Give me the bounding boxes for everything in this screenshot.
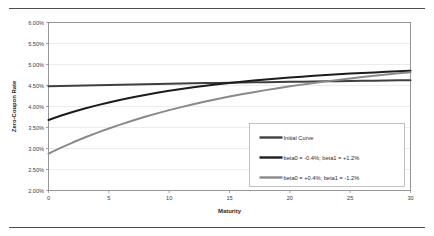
x-tick-label: 0	[47, 195, 50, 201]
line-chart: 2.00%2.50%3.00%3.50%4.00%4.50%5.00%5.50%…	[0, 0, 434, 236]
y-tick-label: 5.50%	[28, 41, 44, 47]
x-tick-label: 15	[226, 195, 232, 201]
x-tick-label: 30	[407, 195, 413, 201]
y-axis-title: Zero-Coupon Rate	[11, 80, 17, 132]
legend-label-0: Initial Curve	[284, 135, 314, 141]
y-tick-label: 5.00%	[28, 62, 44, 68]
y-tick-label: 4.00%	[28, 104, 44, 110]
y-tick-label: 3.00%	[28, 146, 44, 152]
y-tick-label: 2.00%	[28, 188, 44, 194]
y-tick-label: 2.50%	[28, 167, 44, 173]
legend-label-2: beta0 = +0.4%; beta1 = -1.2%	[284, 175, 360, 181]
y-tick-label: 4.50%	[28, 83, 44, 89]
x-tick-label: 5	[107, 195, 110, 201]
x-tick-label: 25	[347, 195, 353, 201]
legend-label-1: beta0 = -0.4%; beta1 = +1.2%	[284, 155, 360, 161]
chart-figure: 2.00%2.50%3.00%3.50%4.00%4.50%5.00%5.50%…	[0, 0, 434, 236]
x-tick-label: 20	[287, 195, 293, 201]
y-axis-tick-labels: 2.00%2.50%3.00%3.50%4.00%4.50%5.00%5.50%…	[28, 20, 44, 194]
x-tick-label: 10	[166, 195, 172, 201]
plot-container: 2.00%2.50%3.00%3.50%4.00%4.50%5.00%5.50%…	[0, 0, 434, 236]
y-tick-label: 3.50%	[28, 125, 44, 131]
y-tick-label: 6.00%	[28, 20, 44, 26]
chart-legend: Initial Curvebeta0 = -0.4%; beta1 = +1.2…	[250, 124, 405, 187]
x-axis-tick-labels: 051015202530	[47, 195, 414, 201]
x-axis-title: Maturity	[218, 208, 242, 214]
